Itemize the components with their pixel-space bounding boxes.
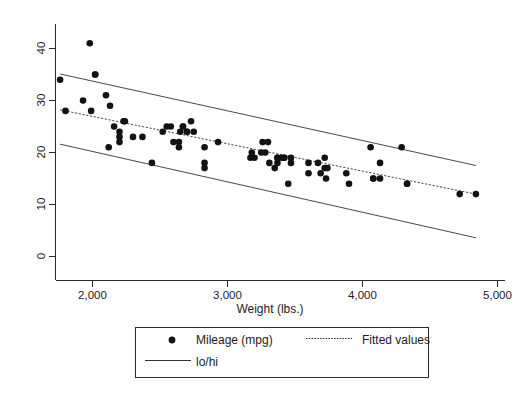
data-point bbox=[170, 139, 177, 146]
data-point bbox=[176, 144, 183, 151]
data-point bbox=[122, 118, 129, 125]
data-point bbox=[188, 118, 195, 125]
data-point bbox=[274, 154, 281, 161]
data-point bbox=[370, 175, 377, 182]
data-point bbox=[317, 170, 324, 177]
data-point bbox=[57, 76, 64, 83]
data-point bbox=[111, 123, 118, 130]
data-point bbox=[323, 175, 330, 182]
data-point bbox=[259, 139, 266, 146]
y-axis-ticks bbox=[49, 49, 56, 257]
data-point bbox=[105, 144, 112, 151]
x-axis-title: Weight (lbs.) bbox=[236, 302, 303, 316]
data-point bbox=[288, 160, 295, 167]
x-tick-label-5000: 5,000 bbox=[483, 289, 512, 301]
data-point bbox=[473, 191, 480, 198]
data-point bbox=[177, 128, 184, 135]
data-point bbox=[159, 128, 166, 135]
y-tick-label-10: 10 bbox=[35, 198, 47, 211]
y-axis-tick-labels: 40 30 20 10 0 bbox=[35, 42, 47, 260]
legend-label-mileage: Mileage (mpg) bbox=[196, 333, 273, 347]
y-tick-label-0: 0 bbox=[35, 253, 47, 259]
data-point bbox=[346, 180, 353, 187]
data-point bbox=[324, 165, 331, 172]
data-point bbox=[190, 128, 197, 135]
data-point bbox=[315, 160, 322, 167]
data-point bbox=[139, 134, 146, 141]
data-point bbox=[456, 191, 463, 198]
data-point bbox=[266, 160, 273, 167]
scatter-plot-canvas: 40 30 20 10 0 2,000 3,000 4,000 5,000 We… bbox=[0, 0, 527, 394]
legend: Mileage (mpg) Fitted values lo/hi bbox=[136, 328, 431, 378]
data-point bbox=[88, 108, 95, 115]
x-axis-tick-labels: 2,000 3,000 4,000 5,000 bbox=[78, 289, 512, 301]
mileage-data-points bbox=[57, 40, 479, 197]
data-point bbox=[80, 97, 87, 104]
data-point bbox=[149, 160, 156, 167]
legend-marker-mileage-icon bbox=[169, 337, 176, 344]
x-tick-label-4000: 4,000 bbox=[348, 289, 377, 301]
data-point bbox=[130, 134, 137, 141]
data-point bbox=[305, 160, 312, 167]
y-tick-label-20: 20 bbox=[35, 146, 47, 159]
data-point bbox=[103, 92, 110, 99]
data-point bbox=[262, 149, 269, 156]
data-point bbox=[201, 160, 208, 167]
data-point bbox=[305, 170, 312, 177]
data-point bbox=[62, 108, 69, 115]
lohi-lower-line bbox=[60, 144, 476, 238]
data-point bbox=[398, 144, 405, 151]
x-tick-label-3000: 3,000 bbox=[213, 289, 242, 301]
y-tick-label-30: 30 bbox=[35, 94, 47, 107]
x-axis-ticks bbox=[93, 281, 498, 288]
data-point bbox=[107, 102, 114, 109]
data-point bbox=[92, 71, 99, 78]
data-point bbox=[281, 154, 288, 161]
data-point bbox=[215, 139, 222, 146]
legend-label-fitted: Fitted values bbox=[362, 333, 430, 347]
axes-group bbox=[56, 24, 506, 281]
data-point bbox=[285, 180, 292, 187]
data-point bbox=[367, 144, 374, 151]
chart-figure: 40 30 20 10 0 2,000 3,000 4,000 5,000 We… bbox=[0, 0, 527, 394]
lohi-band-lines bbox=[60, 74, 476, 238]
data-point bbox=[377, 160, 384, 167]
x-tick-label-2000: 2,000 bbox=[78, 289, 107, 301]
data-point bbox=[163, 123, 170, 130]
data-point bbox=[321, 154, 328, 161]
data-point bbox=[87, 40, 94, 47]
data-point bbox=[404, 180, 411, 187]
data-point bbox=[343, 170, 350, 177]
y-tick-label-40: 40 bbox=[35, 42, 47, 55]
data-point bbox=[249, 149, 256, 156]
data-point bbox=[116, 128, 123, 135]
data-point bbox=[377, 175, 384, 182]
legend-label-lohi: lo/hi bbox=[196, 355, 218, 369]
data-point bbox=[201, 144, 208, 151]
data-point bbox=[184, 128, 191, 135]
